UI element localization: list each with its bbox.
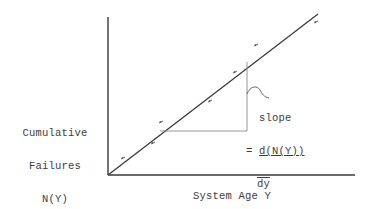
annotation-slope: slope bbox=[259, 113, 305, 124]
annotation-denominator: dy bbox=[257, 179, 305, 190]
data-point-marker bbox=[233, 71, 237, 73]
annotation-derivative: = d(N(Y)) bbox=[246, 146, 305, 157]
slope-annotation: slope = d(N(Y)) dy = failure rate bbox=[259, 91, 305, 209]
y-axis-label-line-1: Cumulative bbox=[16, 128, 94, 139]
data-point-marker bbox=[159, 121, 163, 123]
data-point-marker bbox=[208, 100, 212, 102]
y-axis-label: Cumulative Failures N(Y) bbox=[16, 106, 94, 209]
annotation-numerator: d(N(Y)) bbox=[259, 145, 305, 157]
y-axis-label-line-2: Failures bbox=[16, 161, 94, 172]
data-point-marker bbox=[254, 44, 258, 46]
annotation-equals: = bbox=[246, 145, 259, 157]
y-axis-label-line-3: N(Y) bbox=[16, 194, 94, 205]
data-point-marker bbox=[121, 157, 125, 159]
data-point-marker bbox=[314, 21, 318, 23]
cumulative-failures-diagram: Cumulative Failures N(Y) System Age Y sl… bbox=[0, 0, 370, 209]
